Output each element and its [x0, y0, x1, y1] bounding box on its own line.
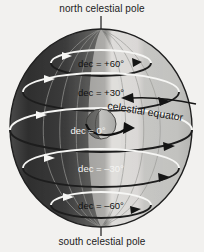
- north-celestial-pole-label: north celestial pole: [0, 3, 204, 14]
- ring-label-minus60: dec = –60°: [78, 200, 124, 211]
- ring-label-plus30: dec = +30°: [78, 87, 124, 98]
- sphere-illustration: dec = +60° dec = +30° dec = 0° dec = –30…: [0, 0, 204, 252]
- ring-label-minus30: dec = –30°: [78, 163, 124, 174]
- south-celestial-pole-label: south celestial pole: [0, 236, 204, 247]
- celestial-sphere-diagram: north celestial pole south celestial pol…: [0, 0, 204, 252]
- ring-label-zero: dec = 0°: [70, 125, 105, 136]
- ring-label-plus60: dec = +60°: [78, 58, 124, 69]
